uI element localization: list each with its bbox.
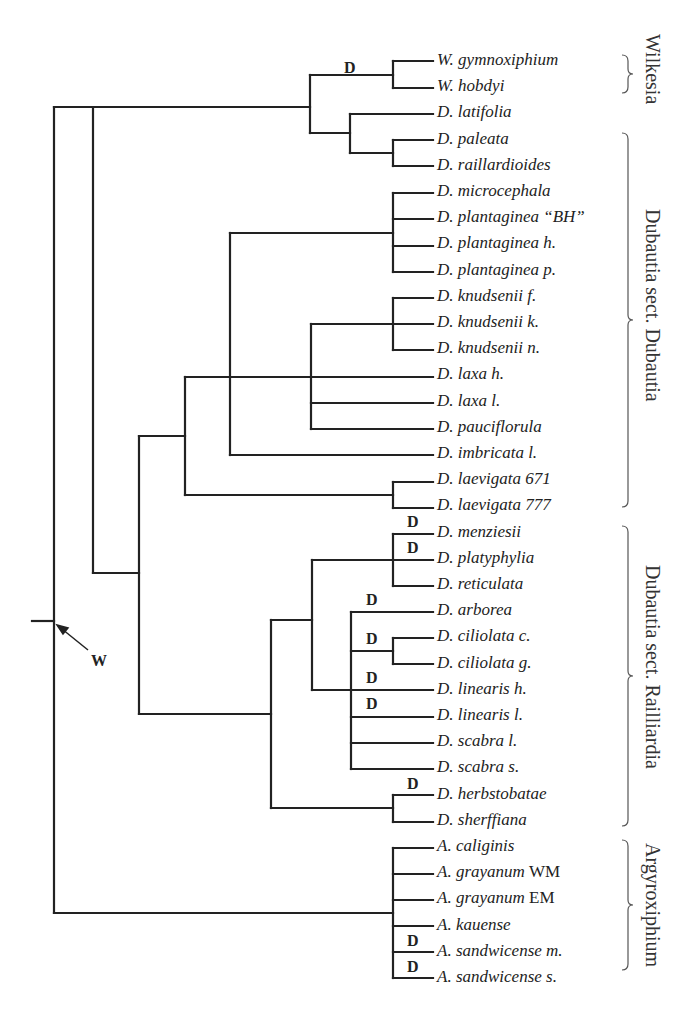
leaf-label: D. knudsenii k. bbox=[437, 312, 539, 332]
taxon-name: D. reticulata bbox=[437, 574, 523, 593]
d-marker-menziesii: D bbox=[407, 514, 419, 530]
taxon-name: D. latifolia bbox=[437, 102, 512, 121]
taxon-name: D. ciliolata g. bbox=[437, 653, 531, 672]
leaf-label: A. caliginis bbox=[437, 836, 514, 856]
taxon-name: A. caliginis bbox=[437, 836, 514, 855]
taxon-name: D. linearis h. bbox=[437, 679, 527, 698]
taxon-name: D. sherffiana bbox=[437, 810, 527, 829]
w-marker-label: W bbox=[91, 652, 107, 670]
taxon-name: A. sandwicense m. bbox=[437, 941, 563, 960]
taxon-name: D. menziesii bbox=[437, 522, 521, 541]
taxon-name: A. sandwicense s. bbox=[437, 967, 557, 986]
bracket-sect-dubautia bbox=[622, 133, 633, 507]
taxon-name: D. laevigata 777 bbox=[437, 495, 551, 514]
d-marker-sandwicense-s: D bbox=[407, 959, 419, 975]
d-marker-sandwicense-m: D bbox=[407, 933, 419, 949]
taxon-name: D. plantaginea “BH” bbox=[437, 207, 585, 226]
group-label-sect-dubautia: Dubautia sect. Dubautia bbox=[642, 209, 664, 402]
taxon-name: W. hobdyi bbox=[437, 76, 504, 95]
taxon-name: D. knudsenii f. bbox=[437, 286, 536, 305]
bracket-argyroxiphium bbox=[622, 840, 633, 970]
leaf-label: D. paleata bbox=[437, 129, 509, 149]
bracket-sect-railliardia bbox=[622, 526, 633, 826]
taxon-name: D. ciliolata c. bbox=[437, 626, 530, 645]
leaf-label: D. microcephala bbox=[437, 181, 551, 201]
taxon-name: D. knudsenii n. bbox=[437, 338, 540, 357]
leaf-label: D. latifolia bbox=[437, 102, 512, 122]
leaf-label: D. linearis h. bbox=[437, 679, 527, 699]
leaf-label: A. kauense bbox=[437, 915, 511, 935]
d-marker-ciliolata: D bbox=[366, 631, 378, 647]
tree-branches bbox=[32, 61, 433, 978]
leaf-label: D. scabra s. bbox=[437, 757, 519, 777]
leaf-label: D. reticulata bbox=[437, 574, 523, 594]
leaf-label: A. sandwicense m. bbox=[437, 941, 563, 961]
leaf-label: D. laevigata 671 bbox=[437, 469, 551, 489]
bracket-wilkesia bbox=[622, 55, 633, 93]
leaf-label: D. laxa h. bbox=[437, 364, 504, 384]
d-marker-herbstobatae: D bbox=[407, 776, 419, 792]
leaf-label: D. linearis l. bbox=[437, 705, 523, 725]
taxon-name: A. grayanum bbox=[437, 862, 525, 881]
leaf-label: D. plantaginea “BH” bbox=[437, 207, 585, 227]
taxon-name: D. microcephala bbox=[437, 181, 551, 200]
taxon-name: A. kauense bbox=[437, 915, 511, 934]
d-marker-platyphylia: D bbox=[407, 540, 419, 556]
taxon-suffix: EM bbox=[529, 888, 555, 907]
taxon-suffix: WM bbox=[529, 862, 560, 881]
leaf-label: D. plantaginea h. bbox=[437, 233, 556, 253]
taxon-name: D. herbstobatae bbox=[437, 784, 547, 803]
taxon-name: D. plantaginea p. bbox=[437, 260, 556, 279]
group-brackets bbox=[622, 55, 633, 970]
leaf-label: D. laevigata 777 bbox=[437, 495, 551, 515]
leaf-label: D. ciliolata c. bbox=[437, 626, 530, 646]
leaf-label: W. gymnoxiphium bbox=[437, 50, 558, 70]
leaf-label: A. grayanum EM bbox=[437, 888, 555, 908]
phylogenetic-tree bbox=[0, 0, 691, 1022]
leaf-label: D. scabra l. bbox=[437, 731, 517, 751]
group-label-wilkesia: Wilkesia bbox=[642, 34, 664, 104]
leaf-label: D. menziesii bbox=[437, 522, 521, 542]
taxon-name: D. linearis l. bbox=[437, 705, 523, 724]
w-arrow-icon bbox=[57, 625, 88, 650]
taxon-name: D. laxa h. bbox=[437, 364, 504, 383]
leaf-label: D. imbricata l. bbox=[437, 443, 537, 463]
group-label-sect-railliardia: Dubautia sect. Railliardia bbox=[642, 565, 664, 769]
leaf-label: D. knudsenii f. bbox=[437, 286, 536, 306]
taxon-name: D. laevigata 671 bbox=[437, 469, 551, 488]
leaf-label: D. raillardioides bbox=[437, 155, 551, 175]
taxon-name: D. pauciflorula bbox=[437, 417, 542, 436]
leaf-label: A. grayanum WM bbox=[437, 862, 560, 882]
taxon-name: D. raillardioides bbox=[437, 155, 551, 174]
taxon-name: W. gymnoxiphium bbox=[437, 50, 558, 69]
taxon-name: D. knudsenii k. bbox=[437, 312, 539, 331]
d-marker-linearis-l: D bbox=[366, 696, 378, 712]
leaf-label: D. knudsenii n. bbox=[437, 338, 540, 358]
leaf-label: D. platyphylia bbox=[437, 548, 534, 568]
leaf-label: D. plantaginea p. bbox=[437, 260, 556, 280]
leaf-label: D. herbstobatae bbox=[437, 784, 547, 804]
d-marker-linearis-h: D bbox=[366, 670, 378, 686]
taxon-name: D. scabra s. bbox=[437, 757, 519, 776]
leaf-label: D. pauciflorula bbox=[437, 417, 542, 437]
leaf-label: D. laxa l. bbox=[437, 391, 500, 411]
taxon-name: D. paleata bbox=[437, 129, 509, 148]
d-marker-arborea: D bbox=[366, 592, 378, 608]
leaf-label: W. hobdyi bbox=[437, 76, 504, 96]
leaf-label: D. sherffiana bbox=[437, 810, 527, 830]
taxon-name: D. imbricata l. bbox=[437, 443, 537, 462]
taxon-name: D. arborea bbox=[437, 600, 512, 619]
taxon-name: D. plantaginea h. bbox=[437, 233, 556, 252]
leaf-label: D. ciliolata g. bbox=[437, 653, 531, 673]
taxon-name: D. scabra l. bbox=[437, 731, 517, 750]
group-label-argyroxiphium: Argyroxiphium bbox=[642, 843, 664, 967]
leaf-label: D. arborea bbox=[437, 600, 512, 620]
d-marker-wilkesia: D bbox=[344, 60, 356, 76]
taxon-name: D. laxa l. bbox=[437, 391, 500, 410]
leaf-label: A. sandwicense s. bbox=[437, 967, 557, 987]
taxon-name: A. grayanum bbox=[437, 888, 525, 907]
node-a bbox=[54, 107, 93, 573]
taxon-name: D. platyphylia bbox=[437, 548, 534, 567]
